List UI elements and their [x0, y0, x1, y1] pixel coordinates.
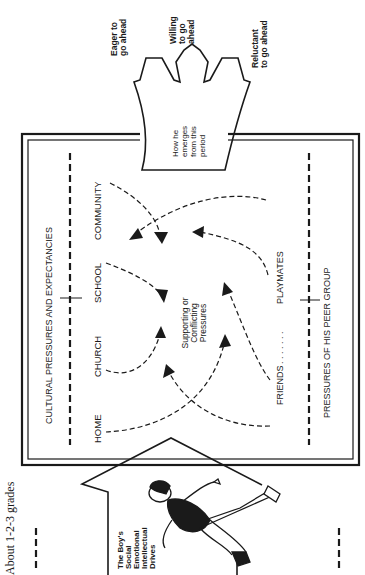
- branch-label-willing: Willingto goahead: [168, 16, 196, 44]
- branch-label-eager: Eager togo ahead: [109, 19, 128, 56]
- source-home: HOME: [92, 415, 103, 444]
- input-arrow-label: The Boy'sSocialEmotionalIntellectualDriv…: [116, 527, 157, 569]
- center-label: Supporting orConflictingPressures: [180, 297, 208, 348]
- source-church: CHURCH: [92, 336, 103, 377]
- source-friends: FRIENDS: [275, 365, 285, 405]
- branch-label-reluctant: Reluctantto go ahead: [250, 20, 269, 68]
- peer-heading: PRESSURES OF HIS PEER GROUP: [322, 267, 332, 418]
- svg-text:The Boy'sSocialEmotionalIntell: The Boy'sSocialEmotionalIntellectualDriv…: [116, 527, 157, 569]
- svg-text:Supporting orConflictingPressu: Supporting orConflictingPressures: [180, 297, 208, 348]
- svg-text:Reluctantto go ahead: Reluctantto go ahead: [250, 20, 269, 68]
- source-community: COMMUNITY: [92, 181, 103, 240]
- caption: About 1-2-3 grades: [3, 481, 17, 575]
- peer-leader-dots: . . . . . . .: [275, 331, 285, 364]
- cultural-heading: CULTURAL PRESSURES AND EXPECTANCIES: [44, 227, 54, 424]
- boy-illustration: [149, 479, 280, 566]
- svg-text:Eager togo ahead: Eager togo ahead: [109, 19, 128, 56]
- peer-divider: [300, 153, 320, 445]
- svg-text:Willingto goahead: Willingto goahead: [168, 16, 196, 44]
- diagram-canvas: About 1-2-3 grades How heemergesfrom thi…: [0, 0, 365, 575]
- source-school: SCHOOL: [92, 263, 103, 303]
- cultural-divider: [60, 153, 82, 445]
- guide-dashes: [36, 528, 339, 570]
- source-playmates: PLAYMATES: [275, 251, 285, 304]
